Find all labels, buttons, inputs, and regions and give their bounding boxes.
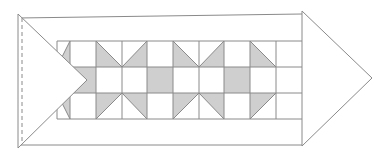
arrow-ends — [18, 11, 372, 148]
shaded-patch — [224, 67, 250, 93]
shaded-patch — [147, 67, 173, 93]
quilt-diagram — [0, 0, 388, 156]
right-arrow-head — [302, 11, 372, 146]
outer-top-edge — [18, 14, 302, 18]
shaded-patches — [57, 41, 276, 119]
left-triangle — [18, 14, 87, 148]
